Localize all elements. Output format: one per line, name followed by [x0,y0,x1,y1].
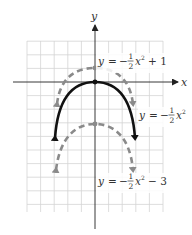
svg-text:y: y [138,109,146,121]
svg-text:y: y [97,175,105,187]
svg-text:2: 2 [182,108,186,115]
svg-text:+ 1: + 1 [148,55,167,67]
svg-text:−: − [119,175,128,187]
svg-text:2: 2 [141,174,145,181]
svg-text:2: 2 [129,182,134,191]
vertex-solid [93,80,98,85]
x-axis-label: x [181,76,188,89]
svg-text:1: 1 [129,52,134,61]
svg-text:−: − [119,55,128,67]
svg-text:− 3: − 3 [148,175,167,187]
label-upper: y = − 1 2 x 2 + 1 [96,52,170,73]
label-lower: y = − 1 2 x 2 − 3 [96,172,170,193]
vertex-lower [93,122,98,127]
svg-text:1: 1 [129,172,134,181]
svg-text:2: 2 [170,116,175,125]
svg-text:2: 2 [129,62,134,71]
svg-text:=: = [108,175,117,187]
svg-text:y: y [97,55,105,67]
svg-text:−: − [160,109,169,121]
y-axis-label: y [90,10,98,23]
label-solid: y = − 1 2 x 2 [138,106,192,127]
svg-text:1: 1 [170,106,175,115]
svg-text:=: = [108,55,117,67]
svg-text:=: = [149,109,158,121]
parabola-graph: x y y = − 1 2 x 2 + 1 y = − 1 2 x 2 y = … [0,0,192,235]
svg-text:2: 2 [141,54,145,61]
